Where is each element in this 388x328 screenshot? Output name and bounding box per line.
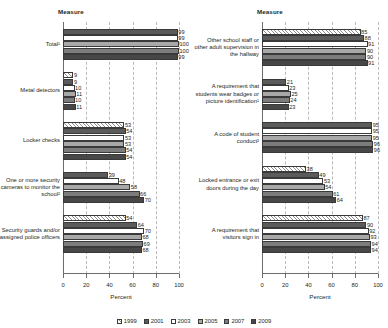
bar-group: Security guards and/or assigned police o… (63, 215, 179, 253)
bar-2005: 53 (63, 141, 124, 147)
axis-tick-80 (156, 274, 157, 278)
bar-value-label: 53 (125, 141, 131, 147)
bar-value-label: 94 (372, 247, 378, 253)
bar-value-label: 70 (145, 228, 151, 234)
legend-item-2005[interactable]: 2005 (198, 318, 218, 324)
legend-swatch-2007 (224, 319, 229, 324)
bar-2005: 100 (63, 41, 179, 47)
axis-tick-100 (179, 274, 180, 278)
bar-row: 95 (262, 135, 378, 141)
bar-2003: 48 (63, 178, 119, 184)
axis-tick-label-0: 0 (61, 282, 64, 288)
bar-value-label: 90 (367, 54, 373, 60)
bar-value-label: 90 (367, 222, 373, 228)
axis-tick-80 (355, 274, 356, 278)
category-label: A code of student conduct² (193, 131, 259, 145)
bar-2005: 54 (262, 184, 325, 190)
x-axis-title: Percent (309, 293, 330, 300)
bar-value-label: 95 (373, 135, 379, 141)
bar-value-label: 53 (125, 122, 131, 128)
axis-tick-100 (378, 274, 379, 278)
bar-2003: 70 (63, 228, 144, 234)
bar-value-label: 61 (333, 191, 339, 197)
bar-value-label: 94 (372, 241, 378, 247)
bar-group: Metal detectors9910111011 (63, 72, 179, 110)
axis-tick-label-40: 40 (305, 282, 311, 288)
bar-value-label: 54 (126, 147, 132, 153)
bar-1999: 87 (262, 215, 363, 221)
measure-header-left: Measure (58, 8, 84, 15)
bar-2005: 68 (63, 234, 142, 240)
bar-value-label: 9 (74, 72, 77, 78)
bar-value-label: 39 (109, 172, 115, 178)
legend-item-2001[interactable]: 2001 (144, 318, 164, 324)
legend-item-2003[interactable]: 2003 (171, 318, 191, 324)
bar-value-label: 21 (287, 79, 293, 85)
axis-tick-60 (332, 274, 333, 278)
category-label: Other school staff or other adult superv… (193, 37, 259, 59)
plot-area-right: 020406080100PercentOther school staff or… (262, 22, 378, 274)
bar-row: 54 (63, 147, 179, 153)
axis-tick-40 (109, 274, 110, 278)
legend-item-1999[interactable]: 1999 (117, 318, 137, 324)
bar-value-label: 23 (289, 85, 295, 91)
bar-row: 87 (262, 215, 378, 221)
bar-row: 99 (63, 29, 179, 35)
bar-group: Locked entrance or exit doors during the… (262, 166, 378, 204)
bar-2001: 90 (262, 222, 366, 228)
bar-row: 58 (63, 184, 179, 190)
bar-value-label: 95 (373, 122, 379, 128)
bar-row: 53 (63, 122, 179, 128)
figure-school-security-chart: Measure 020406080100PercentTotal¹9999100… (0, 0, 388, 328)
bar-row: 21 (262, 79, 378, 85)
legend-label-2009: 2009 (258, 318, 271, 324)
bar-row: 68 (63, 234, 179, 240)
bar-value-label: 90 (367, 48, 373, 54)
bar-2003: 99 (63, 35, 178, 41)
bar-row: 94 (262, 241, 378, 247)
bar-value-label: 93 (370, 234, 376, 240)
bar-row: 53 (262, 178, 378, 184)
bar-row: 11 (63, 91, 179, 97)
bar-value-label: 70 (145, 197, 151, 203)
legend-item-2007[interactable]: 2007 (224, 318, 244, 324)
bar-2009: 64 (262, 197, 336, 203)
bar-1999: 54 (63, 215, 126, 221)
bar-2007: 24 (262, 97, 290, 103)
bar-row: 61 (262, 191, 378, 197)
axis-tick-label-100: 100 (373, 282, 383, 288)
bar-2009: 11 (63, 104, 76, 110)
legend-item-2009[interactable]: 2009 (251, 318, 271, 324)
bar-value-label: 64 (138, 222, 144, 228)
bar-group: Other school staff or other adult superv… (262, 29, 378, 67)
category-label: A requirement that visitors sign in (193, 227, 259, 241)
category-label: One or more security cameras to monitor … (0, 177, 60, 199)
bar-2001: 64 (63, 222, 137, 228)
bar-value-label: 24 (290, 97, 296, 103)
bar-group: Locker checks535453535454 (63, 122, 179, 160)
axis-tick-label-80: 80 (352, 282, 358, 288)
bar-value-label: 49 (319, 172, 325, 178)
bar-value-label: 96 (374, 141, 380, 147)
category-label: Locker checks (0, 137, 60, 144)
bar-value-label: 54 (126, 128, 132, 134)
bar-2007: 54 (63, 147, 126, 153)
bar-row: 94 (262, 247, 378, 253)
bar-value-label: 88 (365, 35, 371, 41)
bar-value-label: 91 (368, 41, 374, 47)
bar-group: A code of student conduct²9595959696 (262, 122, 378, 154)
legend-label-1999: 1999 (124, 318, 137, 324)
bar-value-label: 54 (126, 154, 132, 160)
bar-row: 48 (63, 178, 179, 184)
bar-value-label: 68 (142, 234, 148, 240)
axis-tick-20 (285, 274, 286, 278)
bar-2009: 99 (63, 54, 178, 60)
bar-row: 90 (262, 54, 378, 60)
legend-swatch-1999 (117, 319, 122, 324)
bar-value-label: 10 (75, 85, 81, 91)
bar-2007: 100 (63, 48, 179, 54)
bar-value-label: 99 (178, 35, 184, 41)
bar-1999: 53 (63, 122, 124, 128)
bar-row: 88 (262, 35, 378, 41)
bar-2001: 99 (63, 29, 178, 35)
